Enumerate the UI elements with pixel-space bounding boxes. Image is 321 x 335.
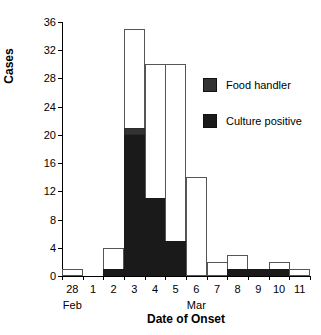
y-tick-label: 4 xyxy=(50,242,56,254)
x-tick-mark xyxy=(310,276,311,280)
y-tick-mark xyxy=(58,78,62,79)
y-tick-label: 8 xyxy=(50,214,56,226)
bar-group xyxy=(124,29,145,276)
bar-group xyxy=(227,255,248,276)
bar-segment-culture-positive xyxy=(248,269,269,276)
x-tick-label: 10 xyxy=(273,283,285,295)
bar-segment-total xyxy=(289,269,310,276)
y-tick-mark xyxy=(58,22,62,23)
x-tick-mark xyxy=(103,276,104,280)
x-tick-mark xyxy=(207,276,208,280)
x-axis-title: Date of Onset xyxy=(62,312,310,326)
y-tick-mark xyxy=(58,50,62,51)
y-tick-label: 20 xyxy=(44,129,56,141)
x-tick-mark xyxy=(227,276,228,280)
bar-segment-culture-positive xyxy=(165,241,186,276)
x-tick-label: 9 xyxy=(255,283,261,295)
epidemic-curve-chart: Cases 04812162024283236 281234567891011 … xyxy=(0,0,321,335)
x-tick-mark xyxy=(145,276,146,280)
plot-area: 04812162024283236 281234567891011 FebMar xyxy=(62,22,310,277)
bar-segment-total xyxy=(207,262,228,276)
x-tick-label: 6 xyxy=(193,283,199,295)
chart-legend: Food handlerCulture positive xyxy=(203,74,318,146)
bar-group xyxy=(62,269,83,276)
bar-group xyxy=(165,64,186,276)
y-tick-label: 28 xyxy=(44,72,56,84)
bar-group xyxy=(289,269,310,276)
bar-group xyxy=(269,262,290,276)
month-label: Feb xyxy=(63,299,82,311)
bar-segment-total xyxy=(62,269,83,276)
x-tick-label: 3 xyxy=(131,283,137,295)
legend-swatch xyxy=(203,78,217,92)
y-tick-label: 12 xyxy=(44,185,56,197)
bar-group xyxy=(103,248,124,276)
bar-segment-total xyxy=(186,177,207,276)
y-tick-mark xyxy=(58,191,62,192)
x-tick-mark xyxy=(124,276,125,280)
bar-segment-culture-positive xyxy=(227,269,248,276)
y-tick-label: 16 xyxy=(44,157,56,169)
x-tick-label: 8 xyxy=(235,283,241,295)
bar-group xyxy=(207,262,228,276)
x-tick-mark xyxy=(289,276,290,280)
x-tick-label: 1 xyxy=(90,283,96,295)
y-tick-label: 24 xyxy=(44,101,56,113)
y-axis-line xyxy=(62,22,63,277)
y-tick-mark xyxy=(58,135,62,136)
bar-segment-culture-positive xyxy=(124,135,145,276)
legend-swatch xyxy=(203,114,217,128)
y-tick-label: 0 xyxy=(50,270,56,282)
x-tick-label: 2 xyxy=(111,283,117,295)
x-tick-label: 28 xyxy=(66,283,78,295)
legend-label: Food handler xyxy=(226,79,291,91)
x-tick-label: 11 xyxy=(294,283,305,295)
x-tick-label: 7 xyxy=(214,283,220,295)
bar-segment-food-handler xyxy=(124,128,145,135)
bar-group xyxy=(186,177,207,276)
x-tick-label: 4 xyxy=(152,283,158,295)
y-tick-mark xyxy=(58,107,62,108)
bar-group xyxy=(248,269,269,276)
legend-label: Culture positive xyxy=(226,115,302,127)
bar-group xyxy=(145,64,166,276)
x-tick-mark xyxy=(269,276,270,280)
bar-segment-culture-positive xyxy=(103,269,124,276)
legend-item: Food handler xyxy=(203,74,318,96)
month-label: Mar xyxy=(187,299,206,311)
x-tick-mark xyxy=(165,276,166,280)
y-tick-mark xyxy=(58,248,62,249)
legend-item: Culture positive xyxy=(203,110,318,132)
bar-segment-culture-positive xyxy=(269,269,290,276)
y-tick-label: 32 xyxy=(44,44,56,56)
x-tick-mark xyxy=(62,276,63,280)
y-tick-mark xyxy=(58,220,62,221)
bar-segment-culture-positive xyxy=(145,198,166,276)
x-tick-label: 5 xyxy=(173,283,179,295)
x-tick-mark xyxy=(83,276,84,280)
x-tick-mark xyxy=(186,276,187,280)
y-axis-title: Cases xyxy=(2,16,18,116)
y-tick-label: 36 xyxy=(44,16,56,28)
x-tick-mark xyxy=(248,276,249,280)
y-tick-mark xyxy=(58,163,62,164)
